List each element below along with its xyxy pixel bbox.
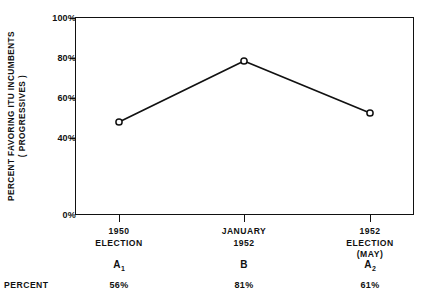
y-axis-title-line-2: ( PROGRESSIVES ) — [17, 31, 28, 201]
y-axis-title-line-1: PERCENT FAVORING ITU INCUMBENTS — [7, 31, 18, 201]
x-category-label-0-line-1: ELECTION — [59, 238, 179, 250]
figure-container: PERCENT FAVORING ITU INCUMBENTS ( PROGRE… — [0, 0, 424, 303]
condition-label-1-base: B — [240, 259, 248, 270]
y-tick-label-0: 0% — [34, 210, 76, 220]
percent-value-2: 61% — [310, 280, 424, 290]
condition-label-2: A2 — [310, 259, 424, 270]
x-category-label-1: JANUARY 1952 — [184, 226, 304, 249]
x-tick-mark-1 — [244, 215, 245, 222]
x-category-label-0: 1950 ELECTION — [59, 226, 179, 249]
condition-label-0-base: A — [113, 259, 121, 270]
condition-label-2-base: A — [364, 259, 372, 270]
percent-value-0: 56% — [59, 280, 179, 290]
percent-row-label: PERCENT — [4, 280, 49, 290]
x-tick-mark-2 — [370, 215, 371, 222]
condition-label-1: B — [184, 259, 304, 270]
condition-label-2-sub: 2 — [372, 265, 376, 272]
plot-area-frame — [75, 17, 414, 215]
x-category-label-1-line-1: 1952 — [184, 238, 304, 250]
condition-label-0-sub: 1 — [121, 265, 125, 272]
percent-value-1: 81% — [184, 280, 304, 290]
x-category-label-0-line-0: 1950 — [59, 226, 179, 238]
x-category-label-2-line-1: ELECTION — [310, 238, 424, 250]
x-tick-mark-0 — [119, 215, 120, 222]
x-category-label-2-line-0: 1952 — [310, 226, 424, 238]
condition-label-0: A1 — [59, 259, 179, 270]
x-category-label-1-line-0: JANUARY — [184, 226, 304, 238]
x-category-label-2: 1952 ELECTION (MAY) — [310, 226, 424, 261]
y-axis-title: PERCENT FAVORING ITU INCUMBENTS ( PROGRE… — [0, 17, 34, 215]
